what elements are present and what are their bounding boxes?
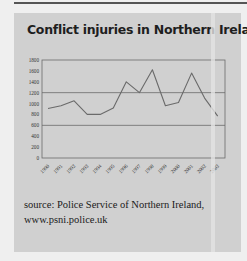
x-tick-label: 1992 — [65, 163, 77, 175]
x-tick-label: 1998 — [143, 163, 155, 175]
y-tick-label: 1400 — [29, 79, 40, 85]
x-tick-label: 1996 — [117, 163, 129, 175]
x-tick-label: 1997 — [130, 163, 142, 175]
y-tick-label: 400 — [31, 133, 39, 139]
plot-frame — [42, 60, 225, 158]
y-tick-label: 600 — [31, 122, 39, 128]
y-axis-ticks: 020040060080010001200140016001800 — [29, 57, 40, 161]
source-line-2: www.psni.police.uk — [24, 212, 234, 227]
x-tick-label: 1990 — [39, 163, 51, 175]
x-tick-label: 1993 — [78, 163, 90, 175]
source-note: source: Police Service of Northern Irela… — [24, 197, 234, 227]
x-tick-label: 1995 — [104, 163, 116, 175]
x-tick-label: 1991 — [52, 163, 64, 175]
y-tick-label: 800 — [31, 111, 39, 117]
source-line-1: source: Police Service of Northern Irela… — [24, 197, 234, 212]
y-tick-label: 1000 — [29, 101, 40, 107]
y-tick-label: 1200 — [29, 90, 40, 96]
x-tick-label: 2002 — [195, 163, 207, 175]
y-tick-label: 0 — [36, 155, 39, 161]
x-tick-label: 1999 — [156, 163, 168, 175]
x-tick-label: 1994 — [91, 163, 103, 175]
plot-area — [42, 60, 225, 158]
x-tick-label: 2000 — [169, 163, 181, 175]
y-tick-label: 1600 — [29, 68, 40, 74]
y-tick-label: 1800 — [29, 57, 40, 63]
x-tick-label: 2001 — [182, 163, 194, 175]
y-tick-label: 200 — [31, 144, 39, 150]
x-axis-ticks: 1990199119921993199419951996199719981999… — [39, 163, 221, 175]
